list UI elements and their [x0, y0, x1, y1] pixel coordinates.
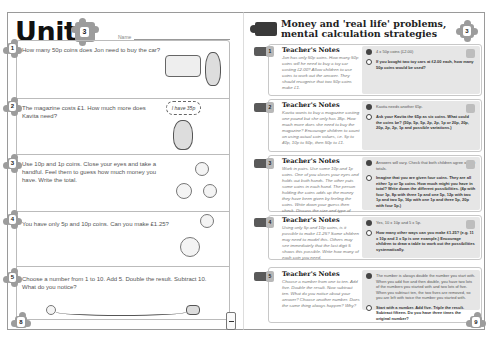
puzzle-piece-icon: 3 — [75, 22, 95, 42]
teacher-note-body: Using only 5p and 10p coins, is it possi… — [282, 225, 360, 261]
title-line-2: mental calculation strategies — [281, 29, 446, 39]
teacher-note-2-left: Teacher's Notes Kavita wants to buy a ma… — [270, 101, 360, 146]
answer-check-icon — [366, 273, 372, 279]
teacher-note-3-answers: Answers will vary. Check that both child… — [362, 157, 480, 210]
answer-text: Answers will vary. Check that both child… — [376, 160, 476, 171]
answer-check-icon — [366, 49, 372, 55]
extension-text: How many other ways can you make £1.25? … — [376, 230, 476, 252]
coin-icon — [203, 184, 217, 198]
coin-icon — [200, 214, 214, 228]
answer-check-icon — [366, 220, 372, 226]
unit-puzzle-icon: 3 — [460, 24, 474, 38]
question-5-text: Choose a number from 1 to 10. Add 5. Dou… — [22, 275, 212, 291]
girl-illustration — [173, 120, 193, 150]
teacher-note-body: Choose a number from one to ten. Add fiv… — [282, 279, 360, 309]
hand-illustration — [186, 305, 200, 315]
divider — [16, 211, 230, 212]
puzzle-header-icon — [255, 22, 277, 36]
extension-icon — [366, 59, 372, 65]
extension-icon — [366, 230, 372, 236]
puzzle-corner-icon — [466, 160, 475, 169]
question-5-number-icon: 5 — [7, 272, 18, 283]
answer-check-icon — [366, 160, 372, 166]
teacher-note-heading: Teacher's Notes — [282, 270, 360, 278]
question-2-text: The magazine costs £1. How much more doe… — [22, 104, 157, 120]
extension-text: Imagine that you are given four coins. T… — [376, 175, 476, 208]
answer-text: The number is always double the number y… — [376, 273, 476, 301]
question-2-number-icon: 2 — [7, 101, 18, 112]
divider — [16, 266, 230, 267]
teacher-note-heading: Teacher's Notes — [282, 157, 360, 165]
divider — [16, 98, 230, 99]
divider — [16, 154, 230, 155]
teacher-note-1-left: Teacher's Notes Jon has only 50p coins. … — [270, 46, 360, 91]
unit-number: 3 — [80, 27, 89, 37]
puzzle-corner-icon — [466, 220, 475, 229]
copyright-strip — [229, 90, 233, 290]
teacher-note-body: Work in pairs. Use some 10p and 1p coins… — [282, 166, 360, 220]
answer-text: Kavita needs another 65p. — [376, 104, 423, 110]
extension-text: Ask your Kavita the 65p as six coins. Wh… — [376, 114, 476, 131]
coin-icon — [176, 183, 192, 199]
page-tab — [226, 312, 236, 330]
letter-a-icon — [46, 305, 56, 315]
question-3-text: Use 10p and 1p coins. Close your eyes an… — [22, 160, 172, 184]
answer-text: Yes, 10 x 10p and 5 x 5p. — [376, 220, 421, 226]
teacher-note-5-left: Teacher's Notes Choose a number from one… — [270, 270, 360, 309]
question-3-number-icon: 3 — [7, 158, 18, 169]
coin-icon — [180, 237, 200, 257]
puzzle-corner-icon — [466, 104, 475, 113]
thought-bubble: I have 35p — [166, 101, 201, 115]
teacher-note-body: Kavita wants to buy a magazine costing o… — [282, 110, 360, 146]
question-4-text: You have only 5p and 10p coins. Can you … — [22, 220, 172, 228]
page-number-right: 9 — [470, 316, 482, 328]
teacher-note-2-answers: Kavita needs another 65p. Ask your Kavit… — [362, 101, 480, 150]
page-title: Money and 'real life' problems, mental c… — [281, 19, 446, 39]
extension-text: Start with a number. Add five. Triple th… — [376, 305, 476, 322]
page-number-left: 8 — [15, 316, 27, 328]
toy-car-illustration — [165, 55, 201, 77]
puzzle-corner-icon — [466, 49, 475, 58]
teacher-note-heading: Teacher's Notes — [282, 216, 360, 224]
question-4-number-icon: 4 — [7, 214, 18, 225]
extension-icon — [366, 114, 372, 120]
teacher-note-1-answers: 4 x 50p coins (£2.00) If you bought two … — [362, 46, 480, 94]
extension-icon — [366, 305, 372, 311]
coin-icon — [195, 162, 209, 176]
extension-text: If you bought two toy cars at £2.00 each… — [376, 59, 476, 70]
question-1-number-icon: 1 — [7, 43, 18, 54]
teacher-note-heading: Teacher's Notes — [282, 101, 360, 109]
teacher-note-4-left: Teacher's Notes Using only 5p and 10p co… — [270, 216, 360, 261]
teacher-note-5-answers: The number is always double the number y… — [362, 270, 480, 310]
answer-check-icon — [366, 104, 372, 110]
teacher-note-heading: Teacher's Notes — [282, 46, 360, 54]
answer-text: 4 x 50p coins (£2.00) — [376, 49, 413, 55]
extension-icon — [366, 175, 372, 181]
question-1-text: How many 50p coins does Jon need to buy … — [22, 46, 182, 54]
boy-illustration — [205, 52, 221, 86]
teacher-note-3-left: Teacher's Notes Work in pairs. Use some … — [270, 157, 360, 220]
teacher-note-4-answers: Yes, 10 x 10p and 5 x 5p. How many other… — [362, 217, 480, 258]
teacher-note-body: Jon has only 50p coins. How many 50p coi… — [282, 55, 360, 91]
squiggle-path-illustration — [56, 308, 186, 316]
